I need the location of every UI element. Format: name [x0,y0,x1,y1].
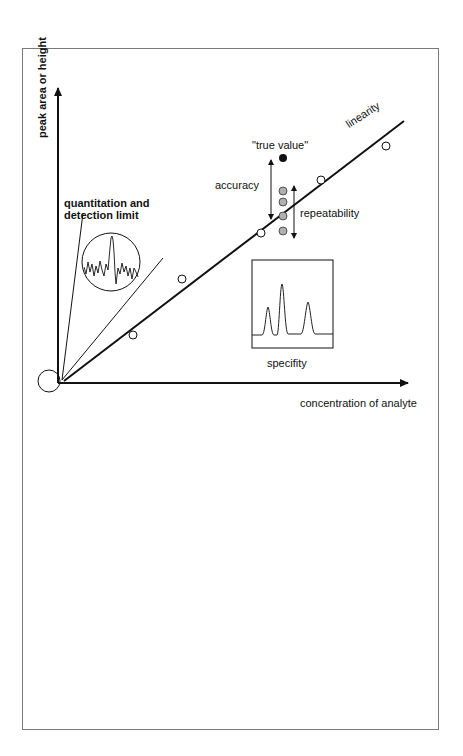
true-value-label: "true value" [252,139,308,151]
quantitation-label-line2: detection limit [64,209,139,221]
y-axis-label: peak area or height [36,37,48,138]
specificity-label: specifity [267,357,307,369]
true-value-point [279,154,287,162]
x-axis-label: concentration of analyte [300,397,417,409]
accuracy-label: accuracy [215,179,259,191]
repeatability-label: repeatability [300,207,359,219]
chromatogram-inset [252,260,333,348]
validation-diagram [0,0,463,756]
quantitation-label-line1: quantitation and [64,197,150,209]
origin-circle [38,370,60,392]
noise-inset [82,233,140,291]
